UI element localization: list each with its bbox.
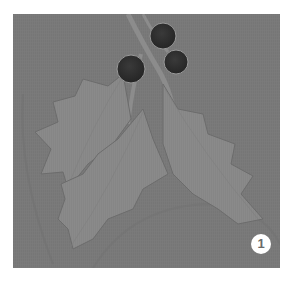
berry-right (164, 50, 188, 74)
step-number-badge: 1 (251, 234, 271, 254)
berry-left (117, 55, 145, 83)
berry-top (150, 23, 176, 49)
holly-photo (13, 14, 280, 268)
photo-frame (13, 14, 280, 268)
step-number: 1 (257, 236, 264, 251)
